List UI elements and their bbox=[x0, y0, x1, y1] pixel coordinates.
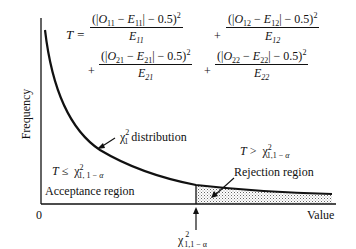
formula-term-11: (|O11 − E11| − 0.5)2 E11 bbox=[90, 13, 183, 42]
critical-value-arrowhead bbox=[193, 207, 199, 214]
formula-term-22: (|O22 − E22| − 0.5)2 E22 bbox=[215, 50, 308, 79]
formula-plus-3: + bbox=[204, 65, 211, 77]
formula-term-21: (|O21 − E21| − 0.5)2 E21 bbox=[99, 50, 192, 79]
curve-label: χ21 distribution bbox=[120, 131, 187, 143]
formula-lhs: T = bbox=[66, 28, 85, 41]
rejection-condition: T > χ21,1 − α bbox=[240, 145, 290, 157]
acceptance-region-label: Acceptance region bbox=[45, 185, 135, 197]
x-axis-label: Value bbox=[307, 209, 334, 221]
y-axis-label: Frequency bbox=[20, 84, 32, 144]
formula-term-12: (|O12 − E12| − 0.5)2 E12 bbox=[226, 13, 319, 42]
critical-value-label: χ21,1 − α bbox=[178, 234, 207, 246]
curve-label-arrowhead bbox=[97, 143, 105, 149]
origin-label: 0 bbox=[36, 209, 42, 221]
rejection-region-label: Rejection region bbox=[234, 166, 314, 178]
acceptance-condition: T ≤ χ21, 1 − α bbox=[52, 165, 103, 177]
formula-plus-1: + bbox=[214, 30, 221, 42]
formula-plus-2: + bbox=[88, 65, 95, 77]
